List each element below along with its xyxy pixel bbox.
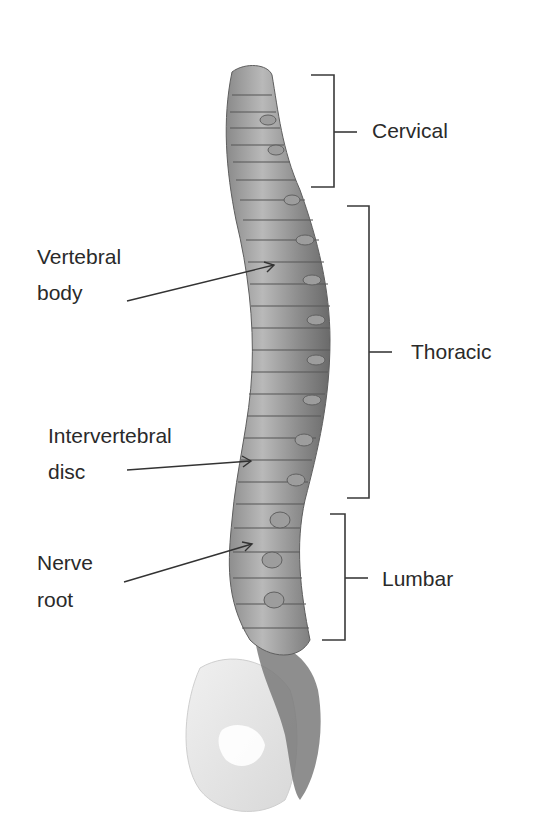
label-cervical: Cervical [372, 118, 448, 144]
label-nerve-root-line1: Nerve [37, 550, 93, 576]
label-thoracic: Thoracic [411, 339, 492, 365]
arrow-intervertebral-disc [127, 456, 251, 470]
label-lumbar: Lumbar [382, 566, 453, 592]
bracket-cervical [311, 75, 357, 187]
bracket-thoracic [347, 206, 392, 498]
label-vertebral-body-line2: body [37, 280, 83, 306]
spine-diagram: Cervical Thoracic Lumbar Vertebral body … [0, 0, 541, 833]
label-intervertebral-disc-line2: disc [48, 459, 85, 485]
spine-illustration [0, 0, 541, 833]
label-nerve-root-line2: root [37, 587, 73, 613]
bracket-lumbar [322, 514, 368, 640]
label-intervertebral-disc-line1: Intervertebral [48, 423, 172, 449]
label-vertebral-body-line1: Vertebral [37, 244, 121, 270]
